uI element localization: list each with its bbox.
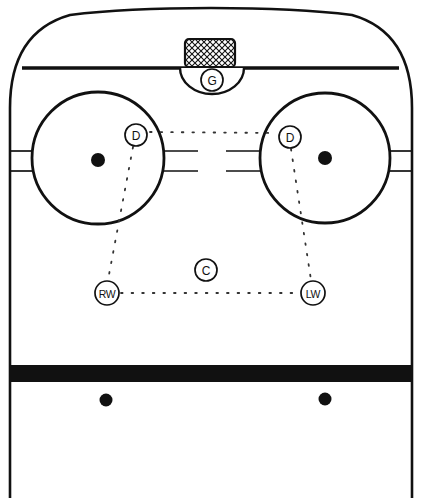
hockey-rink-diagram: G D D C RW LW bbox=[0, 0, 421, 498]
neutral-faceoff-dot-right bbox=[319, 393, 332, 406]
faceoff-dot-left bbox=[91, 153, 105, 167]
player-marker-left-wing[interactable]: LW bbox=[301, 281, 325, 305]
neutral-faceoff-dot-left bbox=[100, 394, 113, 407]
blue-line bbox=[10, 365, 412, 382]
goal-net bbox=[185, 39, 235, 67]
left-wing-label: LW bbox=[306, 288, 321, 300]
player-marker-goalie[interactable]: G bbox=[201, 69, 223, 91]
player-marker-defense-left[interactable]: D bbox=[125, 124, 147, 146]
right-wing-label: RW bbox=[99, 288, 116, 300]
player-marker-defense-right[interactable]: D bbox=[279, 126, 301, 148]
goalie-label: G bbox=[207, 74, 216, 88]
center-label: C bbox=[202, 264, 211, 278]
faceoff-dot-right bbox=[318, 151, 332, 165]
rink-canvas: G D D C RW LW bbox=[0, 0, 421, 498]
player-marker-right-wing[interactable]: RW bbox=[95, 281, 119, 305]
defense-right-label: D bbox=[286, 131, 295, 145]
player-marker-center[interactable]: C bbox=[195, 259, 217, 281]
defense-left-label: D bbox=[132, 129, 141, 143]
